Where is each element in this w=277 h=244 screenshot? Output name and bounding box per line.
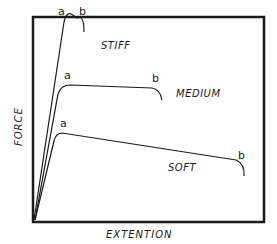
medium-point-a-label: a	[64, 70, 71, 81]
plot-frame	[33, 17, 264, 222]
medium-curve	[35, 85, 162, 220]
force-extension-diagram	[0, 0, 277, 244]
soft-curve	[35, 133, 244, 220]
x-axis-label: EXTENTION	[106, 230, 173, 240]
soft-point-a-label: a	[60, 118, 67, 129]
stiff-curve	[34, 14, 84, 220]
medium-point-b-label: b	[152, 73, 159, 84]
medium-curve-label: MEDIUM	[176, 89, 221, 99]
soft-point-b-label: b	[238, 150, 245, 161]
stiff-point-b-label: b	[79, 6, 86, 17]
stiff-point-a-label: a	[58, 6, 65, 17]
y-axis-label: FORCE	[14, 107, 24, 146]
soft-curve-label: SOFT	[168, 163, 196, 173]
stiff-curve-label: STIFF	[101, 41, 130, 51]
